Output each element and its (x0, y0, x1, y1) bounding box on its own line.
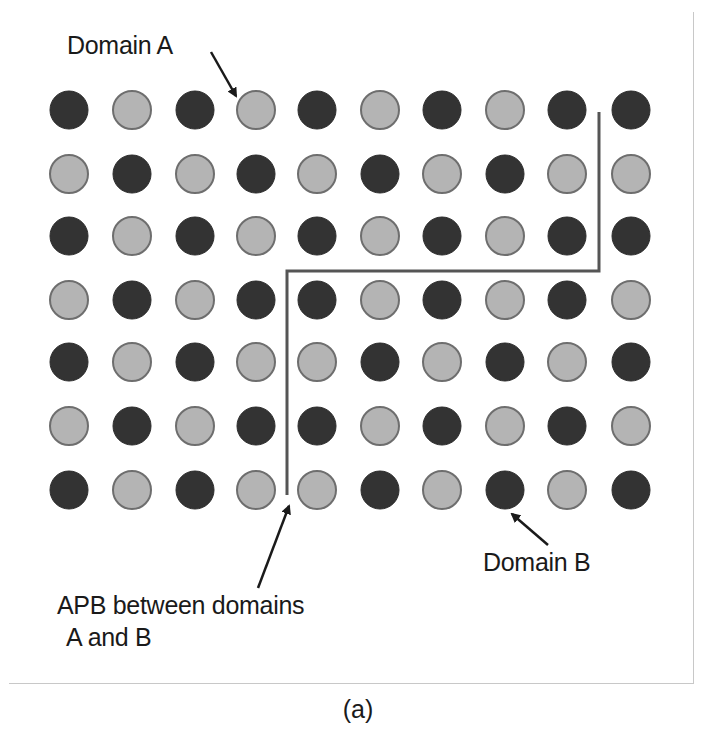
light-atom (237, 91, 275, 129)
dark-atom (298, 407, 336, 445)
frame-border-right (693, 12, 694, 684)
dark-atom (237, 281, 275, 319)
apb-label-line1: APB between domains (57, 593, 304, 618)
dark-atom (361, 343, 399, 381)
light-atom (298, 343, 336, 381)
light-atom (113, 471, 151, 509)
frame-border-bottom (9, 683, 694, 684)
light-atom (361, 281, 399, 319)
light-atom (486, 407, 524, 445)
light-atom (113, 343, 151, 381)
light-atom (237, 471, 275, 509)
light-atom (237, 343, 275, 381)
figure-caption: (a) (0, 697, 716, 722)
dark-atom (423, 217, 461, 255)
atom-grid (50, 91, 650, 509)
dark-atom (176, 91, 214, 129)
dark-atom (298, 217, 336, 255)
domain-b-arrow-icon (512, 514, 548, 545)
light-atom (298, 471, 336, 509)
dark-atom (612, 471, 650, 509)
dark-atom (237, 155, 275, 193)
dark-atom (423, 407, 461, 445)
domain-a-arrow-icon (211, 52, 236, 96)
light-atom (176, 155, 214, 193)
apb-arrow-icon (258, 506, 289, 588)
dark-atom (50, 91, 88, 129)
light-atom (361, 217, 399, 255)
light-atom (486, 281, 524, 319)
dark-atom (113, 281, 151, 319)
light-atom (361, 91, 399, 129)
light-atom (176, 281, 214, 319)
light-atom (176, 407, 214, 445)
dark-atom (612, 91, 650, 129)
dark-atom (548, 91, 586, 129)
light-atom (548, 343, 586, 381)
light-atom (423, 343, 461, 381)
apb-diagram-figure: Domain A Domain B APB between domains A … (0, 0, 716, 738)
dark-atom (298, 281, 336, 319)
light-atom (548, 155, 586, 193)
dark-atom (361, 155, 399, 193)
dark-atom (548, 217, 586, 255)
dark-atom (50, 471, 88, 509)
dark-atom (50, 217, 88, 255)
dark-atom (176, 343, 214, 381)
light-atom (423, 471, 461, 509)
light-atom (612, 281, 650, 319)
dark-atom (486, 471, 524, 509)
dark-atom (612, 343, 650, 381)
dark-atom (423, 91, 461, 129)
light-atom (548, 471, 586, 509)
light-atom (298, 155, 336, 193)
dark-atom (50, 343, 88, 381)
dark-atom (548, 281, 586, 319)
dark-atom (298, 91, 336, 129)
dark-atom (423, 281, 461, 319)
dark-atom (113, 407, 151, 445)
light-atom (361, 407, 399, 445)
light-atom (423, 155, 461, 193)
light-atom (113, 91, 151, 129)
light-atom (486, 217, 524, 255)
domain-a-label: Domain A (67, 33, 173, 58)
apb-label-line2: A and B (66, 625, 151, 650)
dark-atom (612, 217, 650, 255)
dark-atom (486, 155, 524, 193)
dark-atom (237, 407, 275, 445)
dark-atom (486, 343, 524, 381)
light-atom (113, 217, 151, 255)
light-atom (50, 407, 88, 445)
domain-b-label: Domain B (483, 550, 590, 575)
light-atom (486, 91, 524, 129)
dark-atom (361, 471, 399, 509)
light-atom (237, 217, 275, 255)
light-atom (50, 155, 88, 193)
light-atom (50, 281, 88, 319)
light-atom (612, 407, 650, 445)
dark-atom (176, 471, 214, 509)
light-atom (612, 155, 650, 193)
dark-atom (113, 155, 151, 193)
dark-atom (548, 407, 586, 445)
dark-atom (176, 217, 214, 255)
